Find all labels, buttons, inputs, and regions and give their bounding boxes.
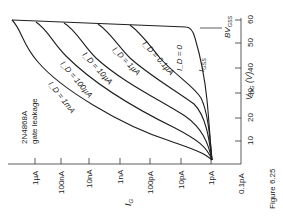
x-tick-label: 100pA xyxy=(146,170,155,194)
x-tick-label: 1pA xyxy=(207,170,216,185)
x-tick-label: 1nA xyxy=(116,169,125,184)
gate-leakage-chart: 1µA 100nA 10nA 1nA 100pA 10pA 1pA 0.1pA … xyxy=(0,0,283,217)
curve-label: I_D = 1mA xyxy=(46,80,76,115)
igss-annotation: IGSS xyxy=(197,58,207,72)
y-tick-label: 50 xyxy=(246,38,255,47)
x-tick-label: 10pA xyxy=(177,170,186,189)
curve-label: I_D = 1µA xyxy=(111,45,142,77)
curve-labels: I_D = 1mA I_D = 100µA I_D = 10µA I_D = 1… xyxy=(46,39,184,115)
y-tick-label: 20 xyxy=(246,113,255,122)
y-tick-label: 40 xyxy=(246,63,255,72)
device-label-line2: gate leakage xyxy=(30,98,39,144)
bvgss-annotation: BVGSS xyxy=(223,15,233,38)
y-axis-title: VDG (V) xyxy=(244,71,255,100)
x-tick-label: 0.1pA xyxy=(237,172,246,194)
y-tick-label: 60 xyxy=(246,15,255,24)
x-axis-title: IG xyxy=(123,198,134,206)
curve-label: I_D = 0 xyxy=(175,44,184,71)
x-tick-label: 100nA xyxy=(57,170,66,194)
curve-id-1ma xyxy=(12,20,212,160)
figure-label: Figure 6.25 xyxy=(268,168,277,209)
curves xyxy=(12,20,212,160)
x-tick-labels: 1µA 100nA 10nA 1nA 100pA 10pA 1pA 0.1pA xyxy=(31,169,246,194)
x-tick-label: 1µA xyxy=(31,170,40,185)
y-tick-label: 10 xyxy=(246,136,255,145)
curve-label: I_D = 0.1µA xyxy=(141,39,176,77)
device-label-line1: 2N4868A xyxy=(20,110,29,144)
x-tick-label: 10nA xyxy=(85,169,94,188)
